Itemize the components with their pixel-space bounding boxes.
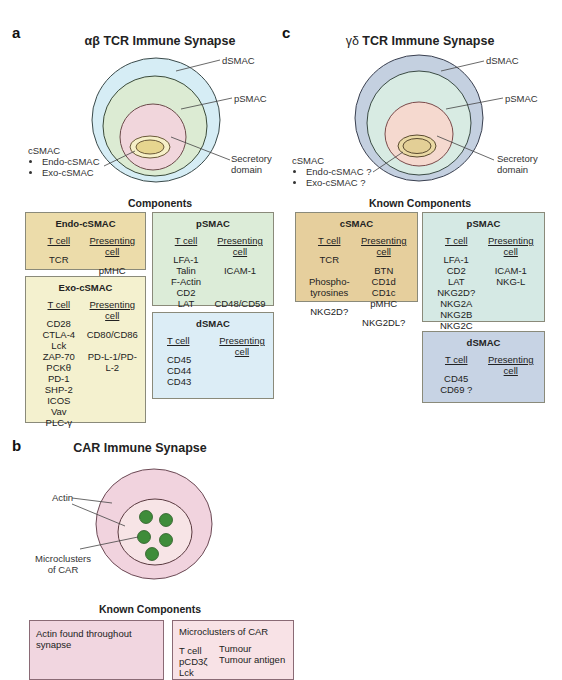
presenting-item: pMHC: [357, 298, 412, 309]
gd-secretory-label: Secretory domain: [497, 153, 537, 175]
ab-dsmac-box: dSMAC T cell CD45 CD44 CD43 Presenting c…: [152, 312, 274, 399]
tcell-item: PCKθ: [32, 362, 86, 373]
tcell-item: CD69 ?: [429, 384, 484, 395]
tcell-item: NKG2C: [429, 320, 484, 331]
col-header: Presenting cell: [484, 354, 539, 376]
gd-synapse-title: γδ TCR Immune Synapse: [330, 34, 510, 48]
box-title: cSMAC: [296, 218, 417, 229]
tcell-item: T cell: [179, 645, 219, 656]
tcell-item: F-Actin: [159, 276, 213, 287]
box-title: Exo-cSMAC: [26, 282, 145, 293]
spacer: [302, 265, 357, 276]
car-synapse-title: CAR Immune Synapse: [60, 441, 220, 455]
tcell-item: Phospho-: [302, 276, 357, 287]
gd-csmac-label: cSMAC Endo-cSMAC ? Exo-cSMAC ?: [292, 155, 371, 188]
col-header: Presenting cell: [86, 235, 140, 257]
tcell-item: CTLA-4: [32, 329, 86, 340]
ab-dsmac-label: dSMAC: [222, 55, 255, 66]
col-header: T cell: [429, 235, 484, 246]
spacer: [86, 340, 140, 351]
tcell-item: Talin: [159, 265, 213, 276]
gd-dsmac-label: dSMAC: [486, 55, 519, 66]
panel-b-letter: b: [12, 437, 21, 454]
presenting-item: CD1d: [357, 276, 412, 287]
tcell-item: LFA-1: [159, 254, 213, 265]
tcell-item: NKG2D?: [302, 306, 357, 317]
tcell-item: CD44: [167, 365, 217, 376]
gd-title-text: TCR Immune Synapse: [362, 34, 494, 48]
tcell-item: CD28: [32, 318, 86, 329]
presenting-item: ICAM-1: [484, 265, 539, 276]
gd-endo-csmac-item: Endo-cSMAC ?: [306, 166, 371, 177]
ab-components-title: Components: [60, 197, 260, 209]
tcell-item: NKG2A: [429, 298, 484, 309]
car-microclusters-box: Microclusters of CAR T cell pCD3ζ Lck Tu…: [172, 620, 294, 680]
car-microclusters-label: Microclusters of CAR: [33, 553, 93, 575]
tcell-item: CD2: [159, 287, 213, 298]
ab-exo-csmac-box: Exo-cSMAC T cell CD28 CTLA-4 Lck ZAP-70 …: [25, 276, 146, 423]
gd-dsmac-box: dSMAC T cell CD45 CD69 ? Presenting cell: [422, 331, 545, 403]
tcell-item: tyrosines: [302, 287, 357, 298]
gd-exo-csmac-item: Exo-cSMAC ?: [306, 177, 371, 188]
presenting-item: PD-L-1/PD-L-2: [86, 351, 140, 373]
col-header: T cell: [32, 299, 86, 310]
box-title: Microclusters of CAR: [173, 621, 293, 637]
box-title: dSMAC: [423, 337, 544, 348]
tcell-item: LAT: [159, 298, 213, 309]
ab-csmac-title: cSMAC: [28, 145, 100, 156]
gd-csmac-title: cSMAC: [292, 155, 371, 166]
gd-psmac-label: pSMAC: [505, 93, 538, 104]
ab-synapse-diagram: [92, 58, 232, 182]
tcell-item: SHP-2: [32, 384, 86, 395]
car-synapse-diagram: [72, 469, 212, 579]
tcell-item: NKG2D?: [429, 287, 484, 298]
ab-endo-csmac-box: Endo-cSMAC T cell TCR Presenting cell pM…: [25, 212, 146, 270]
tcell-item: TCR: [32, 254, 86, 265]
presenting-item: NKG2DL?: [357, 317, 412, 328]
tcell-item: pCD3ζ: [179, 656, 219, 667]
presenting-item: pMHC: [86, 265, 140, 276]
col-header: T cell: [302, 235, 357, 246]
car-actin-label: Actin: [52, 492, 73, 503]
tcell-item: Lck: [32, 340, 86, 351]
gd-greek: γδ: [346, 34, 359, 48]
spacer: [357, 309, 412, 317]
presenting-item: CD48/CD59: [213, 298, 267, 309]
tcell-item: CD43: [167, 376, 217, 387]
tcell-item: LAT: [429, 276, 484, 287]
actin-text: Actin found throughout synapse: [30, 621, 163, 657]
ab-psmac-label: pSMAC: [234, 93, 267, 104]
gd-psmac-box: pSMAC T cell LFA-1 CD2 LAT NKG2D? NKG2A …: [422, 212, 545, 322]
col-header: Presenting cell: [484, 235, 539, 257]
tcell-item: CD45: [167, 354, 217, 365]
ab-psmac-box: pSMAC T cell LFA-1 Talin F-Actin CD2 LAT…: [152, 212, 274, 306]
col-header: T cell: [32, 235, 86, 246]
presenting-item: BTN: [357, 265, 412, 276]
box-title: dSMAC: [153, 318, 273, 329]
presenting-item: NKG-L: [484, 276, 539, 287]
ab-secretory-label: Secretory domain: [231, 153, 271, 175]
ab-endo-csmac-item: Endo-cSMAC: [42, 156, 100, 167]
presenting-item: CD1c: [357, 287, 412, 298]
tumour-item: Tumour antigen: [219, 654, 285, 665]
box-title: Endo-cSMAC: [26, 218, 145, 229]
tcell-item: Lck: [179, 667, 219, 678]
car-actin-box: Actin found throughout synapse: [29, 620, 164, 680]
spacer: [213, 276, 267, 298]
tumour-item: Tumour: [219, 643, 285, 654]
presenting-item: CD80/CD86: [86, 329, 140, 340]
gd-components-title: Known Components: [330, 197, 510, 209]
box-title: pSMAC: [153, 218, 273, 229]
box-title: pSMAC: [423, 218, 544, 229]
ab-csmac-label: cSMAC Endo-cSMAC Exo-cSMAC: [28, 145, 100, 178]
ab-exo-csmac-item: Exo-cSMAC: [42, 167, 100, 178]
tcell-item: PLC-γ: [32, 417, 86, 428]
tcell-item: Vav: [32, 406, 86, 417]
tcell-item: LFA-1: [429, 254, 484, 265]
gd-synapse-diagram: [355, 55, 503, 181]
panel-a-letter: a: [12, 24, 20, 41]
gd-csmac-box: cSMAC T cell TCR Phospho- tyrosines NKG2…: [295, 212, 418, 302]
col-header: Presenting cell: [217, 335, 267, 357]
tcell-item: TCR: [302, 254, 357, 265]
tcell-item: NKG2B: [429, 309, 484, 320]
